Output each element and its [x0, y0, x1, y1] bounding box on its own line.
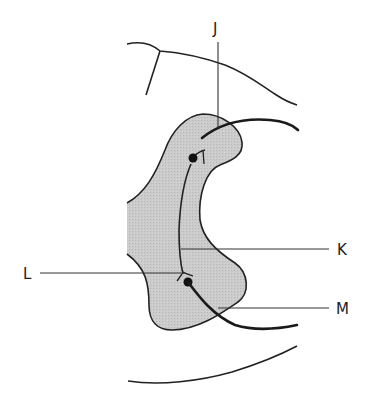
label-M: M	[336, 300, 349, 318]
diagram: J K L M	[0, 0, 370, 400]
label-K: K	[337, 241, 348, 259]
upper-outline	[127, 43, 297, 105]
label-L: L	[23, 265, 32, 283]
upper-node-dot	[189, 154, 198, 163]
shaded-region	[127, 114, 246, 330]
bottom-outline	[128, 346, 297, 383]
label-J: J	[212, 20, 217, 38]
